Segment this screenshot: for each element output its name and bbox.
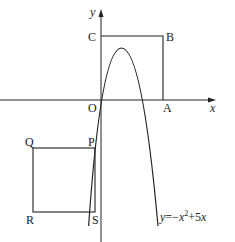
label-b: B — [166, 30, 174, 44]
square-oabc — [101, 36, 163, 100]
label-r: R — [26, 213, 34, 227]
square-pqrs — [33, 148, 95, 212]
x-axis-label: x — [209, 101, 216, 115]
label-p: P — [88, 135, 95, 149]
equation-label: y=−x2+5x — [159, 209, 207, 224]
label-o: O — [88, 101, 97, 115]
parabola-curve — [89, 48, 158, 226]
y-axis-arrow-icon — [99, 9, 104, 17]
label-q: Q — [25, 135, 34, 149]
y-axis-label: y — [89, 5, 96, 19]
label-c: C — [88, 30, 96, 44]
coordinate-diagram: y x O A B C Q P R S y=−x2+5x — [0, 0, 235, 242]
label-s: S — [92, 213, 99, 227]
label-a: A — [163, 101, 172, 115]
